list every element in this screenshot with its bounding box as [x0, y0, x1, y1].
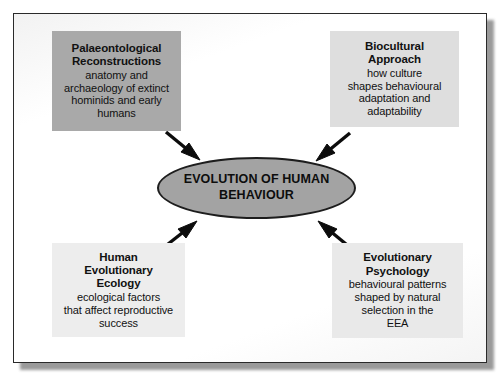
- node-desc-line: humans: [97, 107, 136, 120]
- diagram-canvas: Palaeontological Reconstructions anatomy…: [0, 0, 502, 379]
- node-desc-line: hominids and early: [71, 94, 162, 107]
- node-desc-line: adaptability: [367, 105, 421, 118]
- node-desc-line: shapes behavioural: [348, 80, 442, 93]
- node-desc-line: that affect reproductive: [64, 304, 173, 317]
- node-title-line: Biocultural: [365, 40, 424, 53]
- node-human-evolutionary-ecology: Human Evolutionary Ecology ecological fa…: [52, 243, 185, 337]
- node-desc-line: archaeology of extinct: [64, 82, 169, 95]
- node-desc-line: how culture: [367, 67, 422, 80]
- node-desc-line: behavioural patterns: [349, 278, 447, 291]
- node-desc-line: adaptation and: [359, 92, 430, 105]
- node-desc-line: anatomy and: [85, 69, 148, 82]
- node-desc-line: ecological factors: [77, 291, 160, 304]
- node-title-line: Evolutionary: [363, 251, 431, 264]
- centre-node-evolution-of-human-behaviour: EVOLUTION OF HUMAN BEHAVIOUR: [157, 157, 356, 219]
- node-title-line: Psychology: [366, 265, 430, 278]
- node-title-line: Reconstructions: [72, 55, 161, 68]
- node-desc-line: success: [99, 317, 138, 330]
- node-title-line: Approach: [368, 53, 421, 66]
- node-evolutionary-psychology: Evolutionary Psychology behavioural patt…: [332, 243, 463, 338]
- node-title-line: Palaeontological: [72, 42, 162, 55]
- node-title-line: Human: [99, 251, 137, 264]
- node-desc-line: shaped by natural: [355, 291, 441, 304]
- centre-label-line: EVOLUTION OF HUMAN: [184, 172, 330, 188]
- node-title-line: Evolutionary: [84, 264, 152, 277]
- node-title-line: Ecology: [96, 277, 140, 290]
- node-desc-line: selection in the: [362, 304, 434, 317]
- centre-node-label: EVOLUTION OF HUMAN BEHAVIOUR: [184, 172, 330, 203]
- node-desc-line: EEA: [387, 317, 409, 330]
- centre-label-line: BEHAVIOUR: [184, 188, 330, 204]
- node-palaeontological-reconstructions: Palaeontological Reconstructions anatomy…: [52, 31, 181, 131]
- node-biocultural-approach: Biocultural Approach how culture shapes …: [330, 31, 459, 127]
